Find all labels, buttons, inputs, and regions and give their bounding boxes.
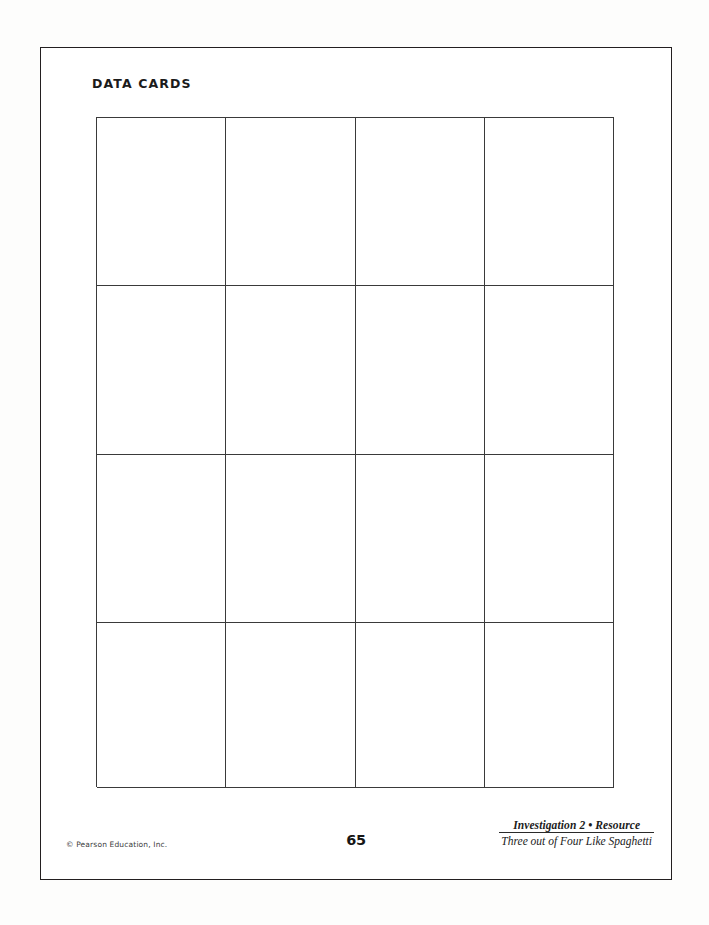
source-divider-rule [499,832,654,833]
data-card-cell[interactable] [485,623,614,788]
data-card-cell[interactable] [356,286,485,455]
data-card-cell[interactable] [226,623,355,788]
source-unit-title: Three out of Four Like Spaghetti [499,834,654,847]
data-card-cell[interactable] [356,118,485,286]
data-cards-grid [96,117,614,787]
data-card-cell[interactable] [356,455,485,623]
data-card-cell[interactable] [356,623,485,788]
source-attribution: Investigation 2 • Resource Three out of … [499,819,654,847]
page-title: DATA CARDS [92,76,192,91]
data-card-cell[interactable] [226,286,355,455]
data-card-cell[interactable] [97,118,226,286]
data-card-cell[interactable] [97,455,226,623]
data-card-cell[interactable] [226,118,355,286]
data-card-cell[interactable] [97,623,226,788]
worksheet-page: DATA CARDS © Pearson Education, Inc. 65 … [0,0,709,925]
data-card-cell[interactable] [485,118,614,286]
data-card-cell[interactable] [226,455,355,623]
data-card-cell[interactable] [97,286,226,455]
source-investigation-label: Investigation 2 • Resource [499,819,654,832]
data-card-cell[interactable] [485,455,614,623]
data-card-cell[interactable] [485,286,614,455]
page-footer: © Pearson Education, Inc. 65 Investigati… [40,812,672,874]
